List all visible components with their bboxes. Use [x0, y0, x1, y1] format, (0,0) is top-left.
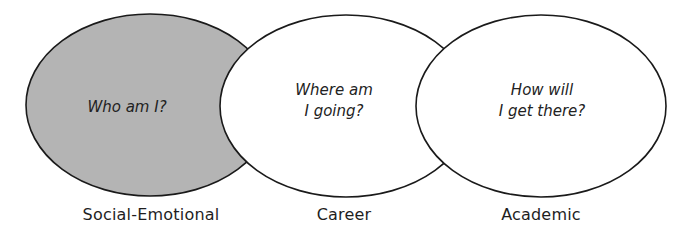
academic-question: How will I get there? [499, 80, 586, 122]
question-line: Who am I? [87, 97, 166, 118]
question-line: Where am [295, 80, 373, 101]
social-emotional-question: Who am I? [87, 97, 166, 118]
question-line: How will [499, 80, 586, 101]
question-line: I going? [295, 101, 373, 122]
academic-label: Academic [501, 205, 581, 224]
social-emotional-label: Social-Emotional [83, 205, 220, 224]
career-question: Where am I going? [295, 80, 373, 122]
career-label: Career [317, 205, 372, 224]
question-line: I get there? [499, 101, 586, 122]
